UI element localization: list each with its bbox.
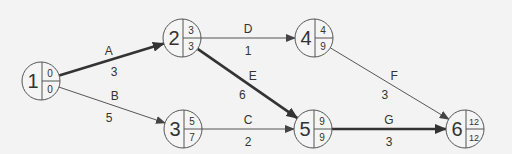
activity-label: A (105, 44, 113, 58)
node-6: 61212 (446, 110, 484, 148)
earliest-time: 12 (469, 117, 479, 127)
edge-F: F3 (330, 48, 448, 119)
duration-label: 6 (239, 88, 246, 102)
node-5: 599 (294, 110, 332, 148)
earliest-time: 0 (47, 68, 53, 79)
activity-label: G (384, 113, 393, 127)
edge-E: E6 (198, 49, 298, 118)
node-number: 5 (299, 118, 310, 140)
edge-D: D1 (201, 22, 295, 58)
duration-label: 2 (245, 135, 252, 149)
latest-time: 0 (47, 84, 53, 95)
edge-A: A3 (59, 44, 164, 80)
earliest-time: 9 (319, 116, 325, 127)
activity-label: F (390, 69, 397, 83)
latest-time: 9 (320, 41, 326, 52)
earliest-time: 4 (320, 25, 326, 36)
latest-time: 9 (319, 132, 325, 143)
edge-B: B5 (59, 87, 165, 124)
node-4: 449 (295, 19, 333, 57)
activity-label: D (244, 22, 253, 36)
activity-label: E (249, 69, 257, 83)
earliest-time: 3 (188, 25, 194, 36)
activity-label: B (111, 89, 119, 103)
node-number: 1 (27, 70, 38, 92)
duration-label: 1 (245, 44, 252, 58)
duration-label: 3 (386, 135, 393, 149)
earliest-time: 5 (189, 116, 195, 127)
edges: A3B5C2D1E6F3G3 (59, 22, 449, 149)
edge-G: G3 (332, 113, 446, 149)
node-1: 100 (22, 62, 60, 100)
node-number: 4 (300, 27, 311, 49)
latest-time: 3 (188, 41, 194, 52)
node-number: 6 (451, 118, 462, 140)
duration-label: 3 (111, 65, 118, 79)
node-2: 233 (163, 19, 201, 57)
duration-label: 5 (106, 111, 113, 125)
node-number: 3 (169, 118, 180, 140)
latest-time: 12 (469, 133, 479, 143)
node-number: 2 (168, 27, 179, 49)
node-3: 357 (164, 110, 202, 148)
latest-time: 7 (189, 132, 195, 143)
activity-label: C (244, 113, 253, 127)
edge-C: C2 (202, 113, 294, 149)
duration-label: 3 (382, 88, 389, 102)
network-diagram: A3B5C2D1E6F3G3 10023335744959961212 (0, 0, 512, 154)
